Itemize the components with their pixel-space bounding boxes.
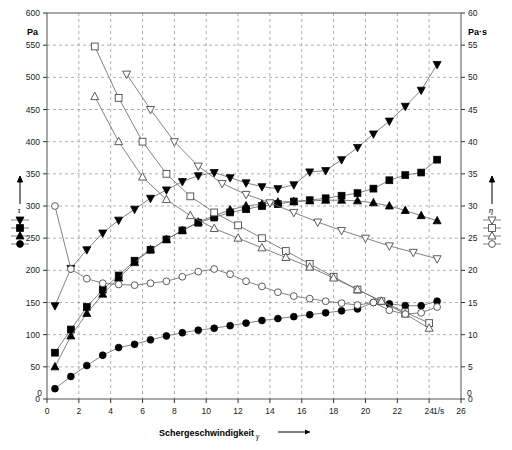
data-point-filled-square bbox=[418, 169, 425, 176]
data-point-open-circle bbox=[418, 309, 425, 316]
data-point-open-circle bbox=[259, 283, 266, 290]
tick-label-bottom: 20 bbox=[361, 406, 371, 416]
data-point-open-square bbox=[139, 138, 146, 145]
tick-label-left: 200 bbox=[26, 265, 40, 275]
legend-marker-filled-circle[interactable] bbox=[17, 241, 24, 248]
data-point-open-square bbox=[115, 95, 122, 102]
data-point-open-circle bbox=[131, 282, 138, 289]
tick-label-left: 300 bbox=[26, 201, 40, 211]
x-axis-zero-left: 0 bbox=[37, 388, 42, 398]
data-point-filled-circle bbox=[306, 311, 313, 318]
data-point-open-circle bbox=[434, 304, 441, 311]
tick-label-left: 250 bbox=[26, 233, 40, 243]
data-point-filled-circle bbox=[179, 329, 186, 336]
data-point-filled-down-triangle bbox=[274, 186, 282, 193]
data-point-open-circle bbox=[274, 289, 281, 296]
chart-figure: 0501001502002503003504004505005506000510… bbox=[0, 0, 512, 450]
data-point-open-circle bbox=[179, 273, 186, 280]
tick-label-bottom: 14 bbox=[265, 406, 275, 416]
legend-marker-open-circle[interactable] bbox=[489, 241, 496, 248]
tick-label-bottom: 26 bbox=[456, 406, 466, 416]
data-point-open-circle bbox=[354, 302, 361, 309]
legend-marker-filled-square[interactable] bbox=[17, 225, 24, 232]
data-point-filled-down-triangle bbox=[433, 61, 441, 68]
data-point-open-circle bbox=[52, 203, 59, 210]
tick-label-right: 40 bbox=[468, 137, 478, 147]
data-point-open-circle bbox=[67, 266, 74, 273]
left-axis-unit: Pa bbox=[27, 27, 39, 37]
data-point-filled-down-triangle bbox=[115, 217, 123, 224]
data-point-open-up-triangle bbox=[115, 137, 123, 144]
data-point-filled-circle bbox=[163, 333, 170, 340]
data-point-open-circle bbox=[163, 278, 170, 285]
legend-marker-open-down-triangle[interactable] bbox=[488, 217, 496, 224]
data-point-open-up-triangle bbox=[186, 211, 194, 218]
tick-label-right: 20 bbox=[468, 265, 478, 275]
data-point-filled-up-triangle bbox=[354, 196, 362, 203]
tick-label-bottom: 10 bbox=[201, 406, 211, 416]
data-point-filled-down-triangle bbox=[338, 157, 346, 164]
data-point-filled-circle bbox=[211, 325, 218, 332]
tick-label-bottom: 6 bbox=[140, 406, 145, 416]
data-point-filled-down-triangle bbox=[306, 169, 314, 176]
tick-label-bottom: 16 bbox=[297, 406, 307, 416]
x-axis-arrow-head bbox=[305, 429, 310, 434]
data-point-open-circle bbox=[402, 311, 409, 318]
tick-label-bottom: 2 bbox=[76, 406, 81, 416]
data-point-filled-circle bbox=[402, 302, 409, 309]
tick-label-bottom: 22 bbox=[393, 406, 403, 416]
x-axis-zero-right: 0 bbox=[467, 388, 472, 398]
legend-marker-open-square[interactable] bbox=[489, 225, 496, 232]
data-point-open-square bbox=[163, 170, 170, 177]
tick-label-left: 100 bbox=[26, 330, 40, 340]
series-tau-down-triangle bbox=[51, 61, 441, 310]
data-point-filled-down-triangle bbox=[131, 206, 139, 213]
data-point-filled-circle bbox=[274, 315, 281, 322]
data-point-open-up-triangle bbox=[91, 92, 99, 99]
data-point-filled-square bbox=[370, 185, 377, 192]
series-eta-up-triangle bbox=[91, 92, 433, 331]
data-point-open-circle bbox=[147, 280, 154, 287]
data-point-filled-square bbox=[386, 177, 393, 184]
data-point-open-down-triangle bbox=[218, 180, 226, 187]
data-point-open-circle bbox=[243, 278, 250, 285]
data-point-filled-down-triangle bbox=[322, 168, 330, 175]
data-point-open-square bbox=[259, 235, 266, 242]
tick-label-bottom: 12 bbox=[233, 406, 243, 416]
tick-label-left: 500 bbox=[26, 72, 40, 82]
tick-label-right: 5 bbox=[468, 362, 473, 372]
data-point-filled-down-triangle bbox=[354, 144, 362, 151]
legend-symbol-η: η bbox=[489, 205, 494, 215]
data-point-filled-circle bbox=[243, 320, 250, 327]
legend-marker-filled-down-triangle[interactable] bbox=[16, 217, 24, 224]
data-point-filled-circle bbox=[290, 313, 297, 320]
data-point-filled-circle bbox=[259, 317, 266, 324]
data-point-open-circle bbox=[211, 266, 218, 273]
data-point-filled-up-triangle bbox=[51, 362, 59, 369]
tick-label-left: 550 bbox=[26, 40, 40, 50]
data-point-open-down-triangle bbox=[194, 163, 202, 170]
data-point-filled-circle bbox=[52, 385, 59, 392]
data-point-filled-square bbox=[402, 172, 409, 179]
data-point-filled-down-triangle bbox=[178, 179, 186, 186]
tick-label-left: 450 bbox=[26, 105, 40, 115]
legend-axis-arrow-left bbox=[17, 176, 22, 204]
data-point-filled-circle bbox=[67, 373, 74, 380]
tick-label-bottom: 0 bbox=[45, 406, 50, 416]
axis-right: 051015202530354045505560 bbox=[461, 8, 478, 404]
tick-label-right: 55 bbox=[468, 40, 478, 50]
tick-label-bottom: 4 bbox=[108, 406, 113, 416]
tick-label-left: 350 bbox=[26, 169, 40, 179]
grid-layer bbox=[47, 13, 461, 399]
legend-marker-filled-up-triangle[interactable] bbox=[16, 232, 24, 239]
chart-svg: 0501001502002503003504004505005506000510… bbox=[0, 0, 512, 450]
axis-unit-labels: PaPa·s1/s00 bbox=[27, 27, 487, 416]
data-point-open-square bbox=[91, 43, 98, 50]
legend-marker-open-up-triangle[interactable] bbox=[488, 232, 496, 239]
series-line-eta-up-triangle bbox=[95, 97, 429, 329]
data-point-open-circle bbox=[322, 298, 329, 305]
data-point-filled-circle bbox=[83, 362, 90, 369]
data-point-filled-square bbox=[354, 190, 361, 197]
data-point-filled-circle bbox=[115, 344, 122, 351]
axis-left: 050100150200250300350400450500550600 bbox=[26, 8, 47, 404]
